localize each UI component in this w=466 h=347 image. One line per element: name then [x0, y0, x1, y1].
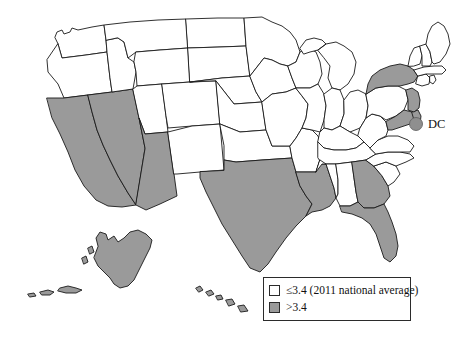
state-CO[interactable]	[162, 81, 220, 128]
state-ND[interactable]	[186, 18, 246, 48]
legend-label-low: ≤3.4 (2011 national average)	[286, 285, 418, 297]
state-VT[interactable]	[408, 46, 422, 66]
legend-item-high: >3.4	[269, 299, 405, 316]
state-HI[interactable]	[196, 286, 248, 312]
state-NJ[interactable]	[406, 88, 420, 112]
state-MA[interactable]	[414, 66, 446, 76]
state-WY[interactable]	[134, 48, 190, 86]
legend-label-high: >3.4	[286, 302, 307, 314]
state-AK[interactable]	[28, 230, 152, 297]
state-DE[interactable]	[412, 110, 421, 126]
map-legend: ≤3.4 (2011 national average) >3.4	[263, 277, 411, 321]
state-FL[interactable]	[340, 202, 398, 262]
legend-item-low: ≤3.4 (2011 national average)	[269, 282, 405, 299]
legend-swatch-low-icon	[269, 285, 280, 296]
state-TX[interactable]	[200, 158, 312, 272]
state-RI[interactable]	[430, 75, 436, 84]
state-NM[interactable]	[168, 124, 224, 174]
legend-swatch-high-icon	[269, 302, 280, 313]
dc-label: DC	[428, 117, 445, 131]
choropleth-map-figure: DC ≤3.4 (2011 national average) >3.4	[0, 0, 466, 347]
